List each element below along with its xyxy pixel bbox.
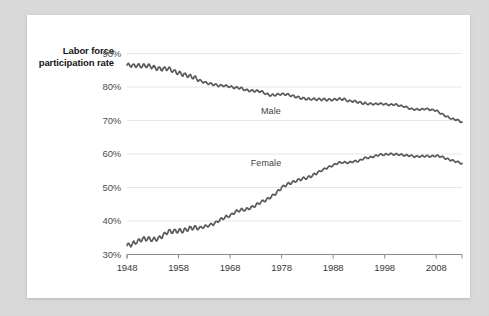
x-tick-label: 1978 [262, 262, 302, 273]
x-tick-label: 1998 [365, 262, 405, 273]
y-tick-label: 30% [91, 249, 121, 260]
y-tick-label: 80% [91, 81, 121, 92]
y-tick-label: 40% [91, 215, 121, 226]
x-tick-label: 1968 [210, 262, 250, 273]
x-tick-label: 1958 [159, 262, 199, 273]
y-tick-label: 50% [91, 182, 121, 193]
series-label-female: Female [251, 158, 282, 168]
y-tick-label: 60% [91, 148, 121, 159]
y-tick-label: 70% [91, 115, 121, 126]
series-label-male: Male [261, 106, 281, 116]
x-tick-label: 2008 [416, 262, 456, 273]
x-tick-label: 1948 [107, 262, 147, 273]
y-tick-label: 90% [91, 48, 121, 59]
x-tick-label: 1988 [313, 262, 353, 273]
